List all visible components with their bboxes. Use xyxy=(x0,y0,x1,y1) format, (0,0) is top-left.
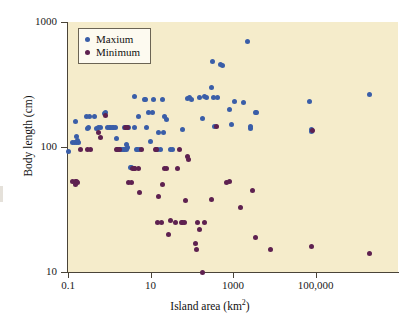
data-point-max xyxy=(114,136,119,141)
page-margin-artifact xyxy=(0,186,3,202)
x-axis-title-base: Island area (km xyxy=(170,300,242,312)
y-tick-label: 100 xyxy=(41,141,58,152)
data-point-min xyxy=(173,220,178,225)
y-tick-mark xyxy=(61,147,68,148)
legend-item-maxium[interactable]: Maxium xyxy=(85,33,140,46)
data-point-max xyxy=(215,95,220,100)
data-point-max xyxy=(150,110,155,115)
data-point-min xyxy=(227,179,232,184)
data-point-min xyxy=(136,166,141,171)
data-point-max xyxy=(227,107,232,112)
data-point-min xyxy=(182,220,187,225)
y-tick-mark xyxy=(61,272,68,273)
data-point-min xyxy=(168,218,173,223)
data-point-min xyxy=(202,220,207,225)
data-point-min xyxy=(309,244,314,249)
x-tick-mark xyxy=(151,272,152,278)
y-axis-title: Body length (cm) xyxy=(22,46,34,226)
x-tick-label: 1000 xyxy=(222,280,244,291)
data-point-max xyxy=(200,116,205,121)
data-point-max xyxy=(132,94,137,99)
data-point-min xyxy=(193,241,198,246)
data-point-max xyxy=(125,145,130,150)
data-point-min xyxy=(98,135,103,140)
x-tick-label: 10 xyxy=(145,280,156,291)
legend-item-minimum[interactable]: Minimum xyxy=(85,46,140,59)
data-point-min xyxy=(73,182,78,187)
y-tick-mark xyxy=(61,22,68,23)
data-point-max xyxy=(307,99,312,104)
data-point-min xyxy=(238,205,243,210)
legend-label-maxium: Maxium xyxy=(96,34,133,45)
data-point-max xyxy=(136,114,141,119)
data-point-min xyxy=(250,188,255,193)
minimum-dot-icon xyxy=(85,50,90,55)
x-tick-mark xyxy=(316,272,317,278)
legend: Maxium Minimum xyxy=(78,28,151,64)
data-point-min xyxy=(186,157,191,162)
data-point-min xyxy=(200,270,205,275)
data-point-min xyxy=(197,227,202,232)
data-point-min xyxy=(209,197,214,202)
data-point-min xyxy=(164,166,169,171)
x-axis-title-tail: ) xyxy=(246,300,250,312)
x-axis-title: Island area (km2) xyxy=(0,298,420,312)
legend-label-minimum: Minimum xyxy=(96,47,140,58)
y-tick-label: 1000 xyxy=(35,16,57,27)
data-point-max xyxy=(204,95,209,100)
data-point-max xyxy=(209,85,214,90)
data-point-max xyxy=(367,92,372,97)
maxium-dot-icon xyxy=(85,37,90,42)
data-point-max xyxy=(220,63,225,68)
scatter-plot-figure: 1010010000.1101000100,000 Maxium Minimum… xyxy=(0,0,420,322)
data-point-min xyxy=(367,251,372,256)
data-point-min xyxy=(253,235,258,240)
x-tick-mark xyxy=(233,272,234,278)
data-point-max xyxy=(73,119,78,124)
data-point-min xyxy=(159,220,164,225)
data-point-min xyxy=(103,113,108,118)
y-tick-label: 10 xyxy=(46,266,57,277)
x-tick-label: 0.1 xyxy=(61,280,75,291)
data-point-max xyxy=(66,149,71,154)
x-tick-label: 100,000 xyxy=(298,280,334,291)
data-point-max xyxy=(197,95,202,100)
x-tick-mark xyxy=(68,272,69,278)
